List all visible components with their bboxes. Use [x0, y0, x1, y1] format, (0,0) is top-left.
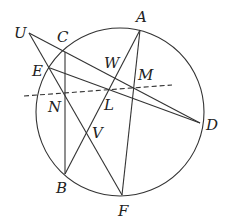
dashed-line-nlm — [24, 85, 172, 96]
segment-af — [122, 30, 140, 195]
point-label-e: E — [31, 62, 43, 80]
point-label-c: C — [57, 28, 69, 46]
point-label-n: N — [47, 98, 62, 116]
point-label-f: F — [117, 202, 129, 220]
point-label-v: V — [92, 124, 105, 142]
point-labels: AUCEWMNLDVBF — [14, 8, 218, 220]
geometry-diagram: AUCEWMNLDVBF — [0, 0, 232, 224]
point-label-d: D — [205, 116, 218, 134]
point-label-u: U — [14, 24, 28, 42]
point-label-b: B — [55, 179, 67, 197]
point-label-w: W — [104, 54, 121, 72]
point-label-a: A — [134, 8, 147, 26]
point-label-l: L — [103, 96, 114, 114]
segment-ab — [65, 30, 140, 174]
segment-ed — [50, 68, 200, 123]
point-label-m: M — [137, 66, 154, 84]
